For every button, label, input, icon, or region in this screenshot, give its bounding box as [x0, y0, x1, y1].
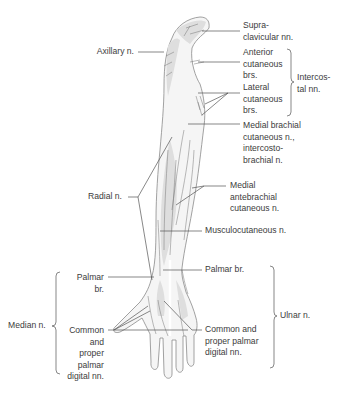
label-median-nerve: Median n. — [8, 320, 46, 332]
label-anterior-cutaneous-branches: Anterior cutaneous brs. — [243, 47, 283, 82]
label-musculocutaneous-nerve: Musculocutaneous n. — [205, 225, 286, 237]
label-ulnar-nerve: Ulnar n. — [280, 310, 310, 322]
label-medial-antebrachial-cutaneous-nerve: Medial antebrachial cutaneous n. — [230, 180, 279, 215]
label-medial-brachial-cutaneous-nerve: Medial brachial cutaneous n., intercosto… — [243, 120, 301, 166]
label-radial-nerve: Radial n. — [70, 191, 122, 203]
label-lateral-cutaneous-branches: Lateral cutaneous brs. — [243, 82, 283, 117]
label-ulnar-palmar-branch: Palmar br. — [205, 264, 244, 276]
label-ulnar-digital-nerves: Common and proper palmar digital nn. — [205, 324, 259, 359]
label-median-palmar-branch: Palmar br. — [60, 272, 104, 295]
label-supraclavicular-nerves: Supra- clavicular nn. — [243, 20, 293, 43]
label-axillary-nerve: Axillary n. — [88, 46, 134, 58]
upper-limb-cutaneous-nerves-figure: Supra- clavicular nn. Axillary n. Anteri… — [0, 0, 357, 396]
label-median-digital-nerves: Common and proper palmar digital nn. — [56, 325, 104, 383]
label-intercostal-nerves: Intercos- tal nn. — [297, 72, 330, 95]
arm-silhouette — [113, 17, 209, 378]
arm-illustration — [0, 0, 357, 396]
